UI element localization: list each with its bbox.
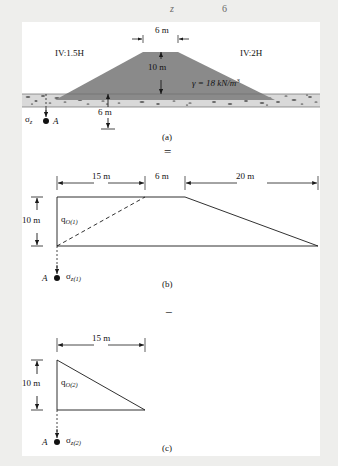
figure-page: z 6 — [0, 0, 338, 466]
sigma-subscript-c: z(2) — [71, 439, 81, 446]
depth-label: 6 m — [98, 108, 112, 117]
unit-weight-exponent: 3 — [236, 77, 239, 84]
header-page-number: 6 — [222, 3, 227, 14]
figure-a-graphic — [22, 22, 320, 132]
left-slope-label: IV:1.5H — [55, 49, 84, 58]
height-label-c: 10 m — [22, 379, 40, 388]
operator-equals: = — [164, 144, 171, 160]
operator-minus: − — [165, 305, 172, 321]
figure-panel: 6 m 10 m 6 m IV:1.5H IV:2H γ = 18 kN/m3 … — [22, 22, 320, 456]
stress-label-b: σz(1) — [66, 272, 81, 282]
header-symbol: z — [170, 3, 174, 14]
unit-weight-text: γ = 18 kN/m — [192, 78, 236, 88]
right-slope-label: IV:2H — [240, 49, 262, 58]
dim-label-b-20: 20 m — [236, 172, 254, 181]
embankment-body — [55, 52, 275, 100]
figure-a-caption: (a) — [162, 132, 172, 142]
dim-label-c-15: 15 m — [92, 334, 110, 343]
point-a-label-b: A — [42, 274, 48, 283]
figure-c-caption: (c) — [162, 443, 172, 453]
point-a-marker-c — [54, 439, 60, 445]
unit-weight-label: γ = 18 kN/m3 — [192, 78, 240, 88]
point-a-marker-b — [54, 275, 60, 281]
stress-label-c: σz(2) — [66, 436, 81, 446]
figure-b-caption: (b) — [162, 279, 173, 289]
dim-label-b-15: 15 m — [92, 172, 110, 181]
embankment-height-label: 10 m — [148, 63, 166, 72]
q-subscript-c: O(2) — [66, 381, 78, 388]
trapezoid-load-outline — [57, 197, 318, 246]
point-a-label-c: A — [42, 438, 48, 447]
load-label-b: qO(1) — [61, 215, 78, 225]
q-subscript-b: O(1) — [66, 218, 78, 225]
crest-width-label: 6 m — [155, 26, 169, 35]
point-a-marker — [43, 118, 49, 124]
height-label-b: 10 m — [22, 216, 40, 225]
sigma-subscript-a: z — [30, 118, 33, 125]
sigma-subscript-b: z(1) — [71, 275, 81, 282]
dim-label-b-6: 6 m — [155, 172, 169, 181]
load-label-c: qO(2) — [61, 378, 78, 388]
point-a-label-a: A — [53, 117, 59, 126]
stress-z-label-a: σz — [25, 115, 32, 125]
